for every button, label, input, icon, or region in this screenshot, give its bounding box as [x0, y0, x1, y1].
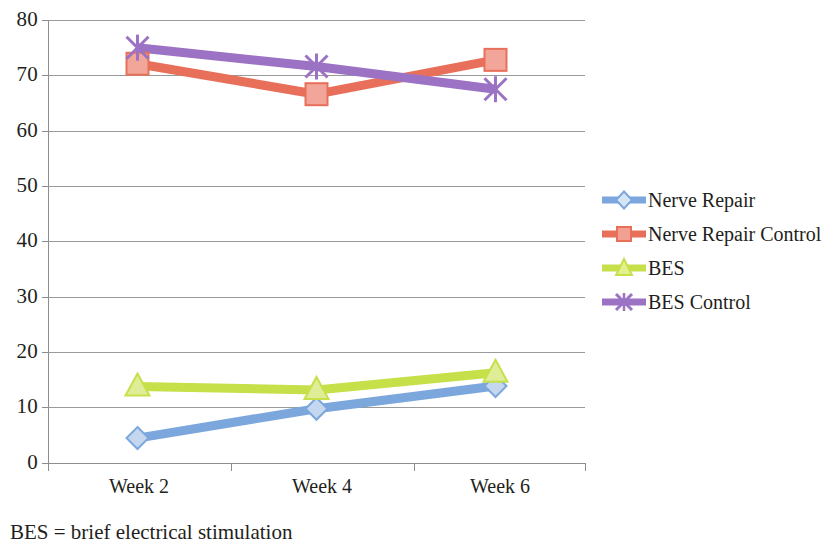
legend-item-nerve-repair-control[interactable]: Nerve Repair Control: [600, 217, 828, 251]
y-tick-label-0: 0: [2, 452, 38, 473]
y-tick-label-40: 40: [2, 230, 38, 251]
legend-marker-cross-icon: [600, 290, 648, 314]
gridline-70: [48, 75, 585, 76]
gridline-30: [48, 297, 585, 298]
x-tick-label-week-2: Week 2: [69, 474, 209, 498]
gridline-20: [48, 352, 585, 353]
legend-marker-square-icon: [600, 222, 648, 246]
gridline-10: [48, 407, 585, 408]
legend-marker-diamond-icon: [600, 188, 648, 212]
x-tick-label-week-4: Week 4: [252, 474, 392, 498]
plot-area: [48, 20, 585, 462]
legend-label-nerve-repair-control: Nerve Repair Control: [648, 222, 821, 246]
legend-label-nerve-repair: Nerve Repair: [648, 188, 755, 212]
y-tick-label-10: 10: [2, 396, 38, 417]
gridline-60: [48, 131, 585, 132]
legend-item-nerve-repair[interactable]: Nerve Repair: [600, 183, 828, 217]
legend-label-bes-control: BES Control: [648, 290, 751, 314]
x-tick-mark-1: [231, 463, 232, 471]
legend-item-bes[interactable]: BES: [600, 251, 828, 285]
y-tick-label-60: 60: [2, 120, 38, 141]
y-axis-tick-labels: 80 70 60 50 40 30 20 10 0: [0, 0, 38, 480]
y-tick-label-70: 70: [2, 64, 38, 85]
legend-item-bes-control[interactable]: BES Control: [600, 285, 828, 319]
axis-baseline: [48, 463, 585, 464]
y-tick-label-30: 30: [2, 286, 38, 307]
legend-label-bes: BES: [648, 256, 685, 280]
x-tick-mark-right: [585, 463, 586, 471]
legend-marker-triangle-icon: [600, 256, 648, 280]
x-tick-mark-2: [414, 463, 415, 471]
line-chart-figure: 80 70 60 50 40 30 20 10 0 Week 2 Week 4 …: [0, 0, 828, 549]
gridline-80: [48, 20, 585, 21]
gridline-40: [48, 241, 585, 242]
figure-caption: BES = brief electrical stimulation: [10, 519, 292, 545]
y-tick-label-50: 50: [2, 175, 38, 196]
x-tick-label-week-6: Week 6: [430, 474, 570, 498]
y-tick-label-80: 80: [2, 9, 38, 30]
chart-legend: Nerve Repair Nerve Repair Control BES: [600, 183, 828, 319]
gridline-50: [48, 186, 585, 187]
y-tick-label-20: 20: [2, 341, 38, 362]
x-tick-mark-left: [48, 463, 49, 471]
